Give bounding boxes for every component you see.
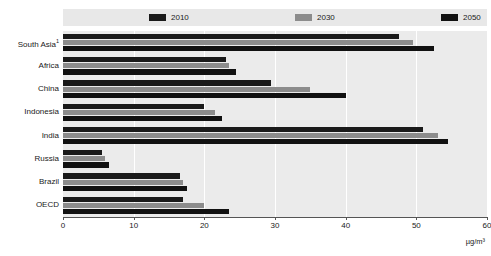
chart-legend: 201020302050 xyxy=(63,9,487,26)
bar-indonesia-2030 xyxy=(63,110,215,115)
bar-south-asia-2050 xyxy=(63,46,434,51)
bar-russia-2050 xyxy=(63,162,109,167)
legend-swatch-icon xyxy=(295,14,312,21)
x-axis-tick xyxy=(416,217,417,220)
bar-oecd-2050 xyxy=(63,209,229,214)
legend-swatch-icon xyxy=(441,14,458,21)
bar-indonesia-2010 xyxy=(63,104,204,109)
x-axis-tick xyxy=(204,217,205,220)
legend-item-2010[interactable]: 2010 xyxy=(149,9,189,26)
gridline xyxy=(416,31,417,217)
legend-label: 2010 xyxy=(171,14,189,22)
bar-china-2030 xyxy=(63,87,310,92)
bar-russia-2010 xyxy=(63,150,102,155)
y-axis-label-indonesia: Indonesia xyxy=(24,108,59,116)
x-axis-tick-label: 50 xyxy=(412,222,421,230)
x-axis-tick-label: 30 xyxy=(271,222,280,230)
y-axis-label-oecd: OECD xyxy=(36,201,59,209)
bar-brazil-2010 xyxy=(63,173,180,178)
x-axis-tick xyxy=(487,217,488,220)
y-axis-labels: South Asia1AfricaChinaIndonesiaIndiaRuss… xyxy=(0,31,59,217)
bar-africa-2010 xyxy=(63,57,226,62)
x-axis-tick-label: 0 xyxy=(61,222,65,230)
y-axis-label-russia: Russia xyxy=(35,155,59,163)
bar-india-2030 xyxy=(63,133,438,138)
bar-india-2010 xyxy=(63,127,423,132)
bar-china-2010 xyxy=(63,80,271,85)
x-axis-tick xyxy=(63,217,64,220)
gridline xyxy=(487,31,488,217)
gridline xyxy=(275,31,276,217)
bar-india-2050 xyxy=(63,139,448,144)
legend-label: 2030 xyxy=(317,14,335,22)
y-axis-label-africa: Africa xyxy=(39,62,59,70)
x-axis-tick-label: 10 xyxy=(129,222,138,230)
legend-swatch-icon xyxy=(149,14,166,21)
y-axis-label-brazil: Brazil xyxy=(39,178,59,186)
plot-area xyxy=(63,31,487,217)
x-axis-tick-label: 20 xyxy=(200,222,209,230)
y-axis-label-china: China xyxy=(38,85,59,93)
x-axis-tick-label: 40 xyxy=(341,222,350,230)
x-axis-tick xyxy=(275,217,276,220)
bar-brazil-2050 xyxy=(63,186,187,191)
bar-china-2050 xyxy=(63,93,346,98)
x-axis-tick xyxy=(134,217,135,220)
x-axis-tick-label: 60 xyxy=(483,222,491,230)
x-axis-unit-label: µg/m³ xyxy=(466,238,485,246)
legend-label: 2050 xyxy=(463,14,481,22)
footnote-marker: 1 xyxy=(56,38,59,44)
bar-brazil-2030 xyxy=(63,180,183,185)
x-axis-tick xyxy=(346,217,347,220)
bar-africa-2030 xyxy=(63,63,229,68)
bar-africa-2050 xyxy=(63,69,236,74)
bar-south-asia-2030 xyxy=(63,40,413,45)
legend-item-2030[interactable]: 2030 xyxy=(295,9,335,26)
gridline xyxy=(346,31,347,217)
bar-indonesia-2050 xyxy=(63,116,222,121)
bar-oecd-2010 xyxy=(63,197,183,202)
bar-south-asia-2010 xyxy=(63,34,399,39)
y-axis-label-south-asia: South Asia1 xyxy=(18,39,59,49)
y-axis-label-india: India xyxy=(42,132,59,140)
bar-russia-2030 xyxy=(63,156,105,161)
legend-item-2050[interactable]: 2050 xyxy=(441,9,481,26)
bar-oecd-2030 xyxy=(63,203,204,208)
